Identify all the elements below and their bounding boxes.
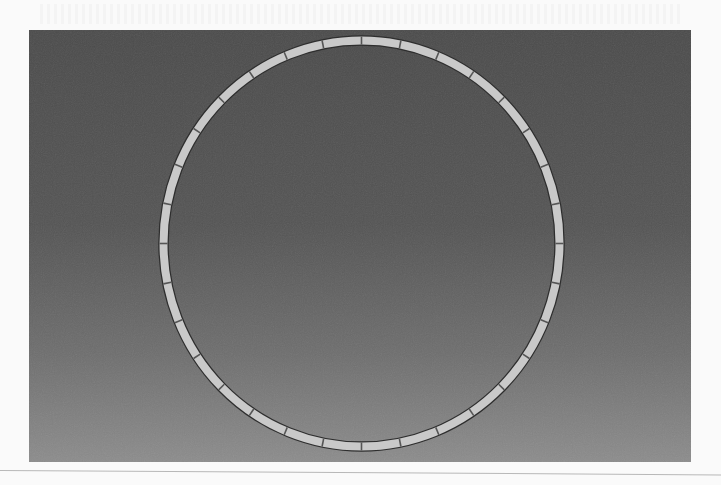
image-panel [29,30,691,462]
page [0,0,721,485]
bottom-rule-line [0,470,721,475]
segmented-ring [29,30,691,462]
faint-bleed-through-text [40,4,680,24]
film-grain [29,30,691,462]
